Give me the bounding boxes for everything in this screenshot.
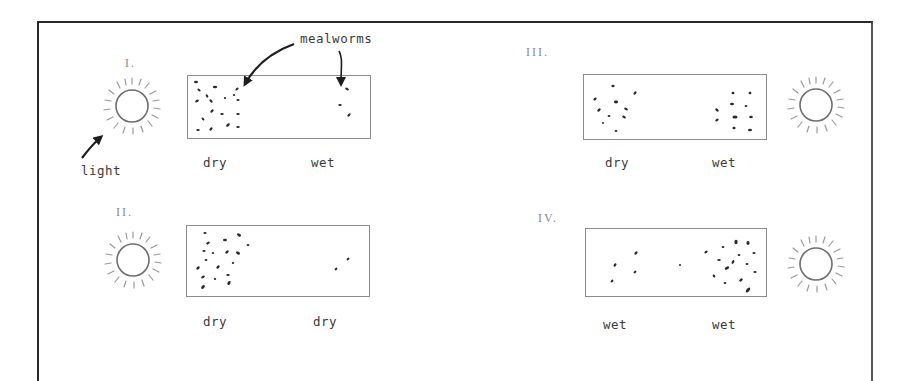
sun-icon <box>788 236 844 292</box>
sun-icon <box>104 78 160 134</box>
sun-icon <box>105 232 161 288</box>
arrow-icon <box>339 51 342 84</box>
arrow-icon <box>82 137 101 158</box>
mealworm-cluster <box>593 85 753 132</box>
mealworm-cluster <box>194 81 351 132</box>
sun-icon <box>788 77 844 133</box>
mealworm-cluster <box>610 240 757 293</box>
arrow-icon <box>245 44 294 84</box>
mealworm-cluster <box>196 232 350 290</box>
